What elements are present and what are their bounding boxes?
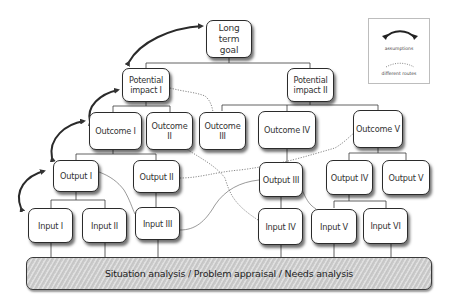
node-input-5: Input V [311,209,357,244]
legend-different-routes-label: different routes [369,71,429,76]
situation-analysis-bar: Situation analysis / Problem appraisal /… [26,257,432,290]
legend: assumptions different routes [368,18,430,84]
node-output-1: Output I [53,160,99,192]
node-outcome-2: Outcome II [146,112,193,150]
node-output-2: Output II [133,160,180,193]
node-outcome-5: Outcome V [353,110,403,148]
results-chain-diagram: assumptions different routes Long term g… [0,0,449,303]
node-input-6: Input VI [363,208,408,244]
node-output-5: Output V [382,160,430,195]
different-routes-lines [170,88,354,220]
node-output-4: Output IV [326,160,373,195]
legend-assumptions-label: assumptions [369,46,429,51]
node-input-3: Input III [135,207,180,240]
node-output-3: Output III [259,162,303,197]
node-input-2: Input II [82,208,127,243]
assumption-arrow-icon [385,31,415,38]
node-input-4: Input IV [258,208,303,245]
node-potential-impact-2: Potential impact II [287,68,334,102]
node-input-1: Input I [28,208,73,243]
node-long-term-goal: Long term goal [206,20,252,58]
node-outcome-3: Outcome III [199,112,246,150]
dotted-route-icon [386,63,414,67]
node-outcome-1: Outcome I [89,112,142,150]
node-outcome-4: Outcome IV [258,111,316,149]
node-potential-impact-1: Potential impact I [122,68,170,102]
